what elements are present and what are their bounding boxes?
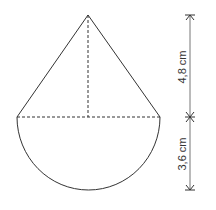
figure: 4,8 cm 3,6 cm bbox=[0, 0, 216, 210]
cone-height-label: 4,8 cm bbox=[176, 50, 188, 83]
radius-label: 3,6 cm bbox=[176, 137, 188, 170]
cone-semicircle-diagram: 4,8 cm 3,6 cm bbox=[0, 0, 216, 210]
semicircle-outline bbox=[17, 117, 160, 190]
